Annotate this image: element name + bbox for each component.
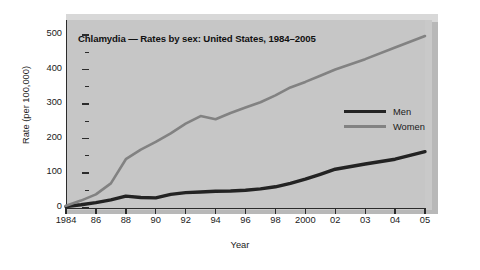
chart-figure: Chlamydia — Rates by sex: United States,… — [0, 0, 480, 270]
series-line-men — [66, 152, 425, 207]
legend-item-women: Women — [344, 119, 425, 134]
chart-legend: Men Women — [344, 104, 425, 134]
legend-label-women: Women — [393, 122, 425, 132]
legend-swatch-women-icon — [344, 125, 386, 128]
legend-swatch-men-icon — [344, 110, 386, 113]
legend-item-men: Men — [344, 104, 425, 119]
legend-label-men: Men — [393, 107, 411, 117]
series-lines — [0, 0, 480, 270]
